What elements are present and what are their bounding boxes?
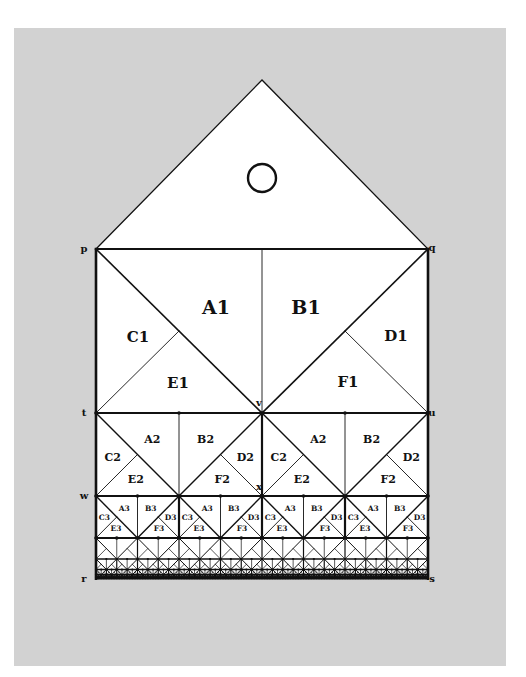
label-e1: E1: [167, 374, 189, 392]
junction-dot: [219, 568, 221, 570]
point-label-x: x: [256, 481, 263, 492]
junction-dot: [313, 568, 315, 570]
label-f2: F2: [214, 473, 229, 486]
label-f3: F3: [237, 524, 248, 533]
junction-dot: [136, 568, 138, 570]
junction-dot: [334, 568, 336, 570]
junction-dot: [344, 558, 346, 560]
junction-dot: [260, 494, 264, 498]
junction-dot: [199, 568, 201, 570]
junction-dot: [260, 536, 264, 540]
junction-dot: [157, 558, 159, 560]
label-f2: F2: [380, 473, 395, 486]
point-label-s: s: [429, 573, 435, 584]
junction-dot: [380, 568, 382, 570]
junction-dot: [396, 558, 398, 560]
junction-dot: [147, 558, 149, 560]
label-c3: C3: [348, 513, 359, 522]
label-c3: C3: [265, 513, 276, 522]
junction-dot: [239, 536, 243, 540]
junction-dot: [209, 558, 211, 560]
house-recursive-diagram: A1B1C1D1E1F1A2B2C2D2E2F2A2B2C2D2E2F2A3B3…: [0, 0, 526, 677]
junction-dot: [422, 568, 424, 570]
junction-dot: [323, 568, 325, 570]
junction-dot: [417, 568, 419, 570]
junction-dot: [152, 568, 154, 570]
label-c2: C2: [104, 451, 120, 464]
point-label-p: p: [81, 243, 88, 254]
junction-dot: [282, 568, 284, 570]
label-c1: C1: [127, 328, 149, 346]
label-a2: A2: [309, 433, 326, 446]
junction-dot: [385, 494, 389, 498]
junction-dot: [219, 558, 221, 560]
junction-dot: [198, 536, 202, 540]
roof-triangle: [96, 80, 428, 249]
label-a3: A3: [201, 504, 213, 513]
junction-dot: [313, 558, 315, 560]
label-f3: F3: [154, 524, 165, 533]
label-b3: B3: [228, 504, 240, 513]
junction-dot: [339, 568, 341, 570]
point-label-r: r: [81, 573, 87, 584]
junction-dot: [188, 558, 190, 560]
junction-dot: [417, 558, 419, 560]
junction-dot: [354, 568, 356, 570]
junction-dot: [157, 568, 159, 570]
junction-dot: [354, 558, 356, 560]
junction-dot: [385, 558, 387, 560]
label-a2: A2: [143, 433, 160, 446]
junction-dot: [177, 494, 181, 498]
junction-dot: [406, 568, 408, 570]
label-d3: D3: [414, 513, 426, 522]
junction-dot: [209, 568, 211, 570]
junction-dot: [110, 568, 112, 570]
junction-dot: [168, 568, 170, 570]
junction-dot: [308, 568, 310, 570]
junction-dot: [411, 568, 413, 570]
label-b3: B3: [145, 504, 157, 513]
junction-dot: [292, 558, 294, 560]
junction-dot: [276, 568, 278, 570]
junction-dot: [245, 568, 247, 570]
point-label-q: q: [429, 242, 436, 253]
junction-dot: [177, 536, 181, 540]
label-e3: E3: [359, 524, 370, 533]
label-e3: E3: [193, 524, 204, 533]
point-label-v: v: [255, 397, 263, 408]
junction-dot: [256, 568, 258, 570]
junction-dot: [136, 558, 138, 560]
junction-dot: [302, 494, 306, 498]
junction-dot: [147, 568, 149, 570]
junction-dot: [364, 536, 368, 540]
label-b2: B2: [197, 433, 214, 446]
label-b3: B3: [311, 504, 323, 513]
junction-dot: [105, 568, 107, 570]
junction-dot: [385, 536, 389, 540]
point-label-w: w: [79, 490, 89, 501]
label-f3: F3: [320, 524, 331, 533]
junction-dot: [365, 568, 367, 570]
point-label-t: t: [82, 407, 87, 418]
point-label-u: u: [428, 407, 435, 418]
junction-dot: [126, 558, 128, 560]
junction-dot: [261, 558, 263, 560]
junction-dot: [177, 411, 181, 415]
junction-dot: [100, 568, 102, 570]
junction-dot: [240, 568, 242, 570]
junction-dot: [302, 568, 304, 570]
label-c2: C2: [270, 451, 286, 464]
junction-dot: [219, 494, 223, 498]
junction-dot: [251, 568, 253, 570]
junction-dot: [116, 568, 118, 570]
junction-dot: [142, 568, 144, 570]
junction-dot: [281, 536, 285, 540]
junction-dot: [406, 558, 408, 560]
label-d2: D2: [237, 451, 254, 464]
junction-dot: [359, 568, 361, 570]
label-c3: C3: [99, 513, 110, 522]
label-d1: D1: [384, 327, 407, 345]
junction-dot: [271, 568, 273, 570]
junction-dot: [297, 568, 299, 570]
junction-dot: [287, 568, 289, 570]
